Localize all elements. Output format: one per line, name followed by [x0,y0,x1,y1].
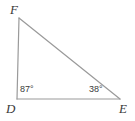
angle-label-e: 38° [89,85,103,94]
triangle-diagram [0,0,135,121]
geometry-figure: F D E 87° 38° [0,0,135,121]
vertex-label-e: E [119,102,127,115]
angle-label-d: 87° [20,85,34,94]
triangle-side-fe [19,18,120,99]
vertex-label-f: F [10,3,18,16]
triangle-side-fd [17,18,19,99]
vertex-label-d: D [6,102,15,115]
